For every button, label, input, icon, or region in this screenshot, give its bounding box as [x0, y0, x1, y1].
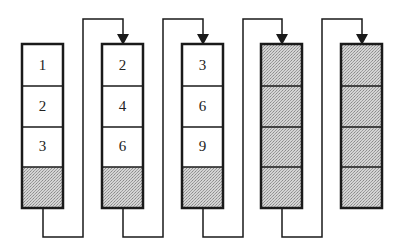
column-2: 2 4 6 — [102, 44, 143, 208]
column-4 — [261, 44, 302, 208]
cell-value: 4 — [119, 98, 127, 114]
column-5 — [341, 44, 382, 208]
cell-value: 3 — [199, 57, 207, 73]
cell-value: 9 — [199, 138, 207, 154]
cell-value: 3 — [39, 138, 47, 154]
cell-value: 6 — [199, 98, 207, 114]
cell-value: 2 — [119, 57, 127, 73]
cell-value: 1 — [39, 57, 47, 73]
memory-chain-diagram: 1 2 3 2 4 6 3 6 9 — [0, 0, 400, 251]
cell-value: 2 — [39, 98, 47, 114]
column-3: 3 6 9 — [182, 44, 223, 208]
cell-value: 6 — [119, 138, 127, 154]
column-1: 1 2 3 — [22, 44, 63, 208]
